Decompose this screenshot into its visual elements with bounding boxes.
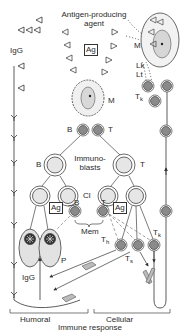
label-mem: Mem <box>81 228 99 236</box>
macrophage-top-right <box>141 13 179 67</box>
antigen-box-top: Ag <box>84 44 98 56</box>
label-b-blast: B <box>36 161 41 169</box>
footer-brackets <box>10 309 170 313</box>
label-tk-top: Tk <box>135 93 143 103</box>
label-t-blast: T <box>140 161 145 169</box>
macrophage-center <box>72 80 104 116</box>
label-ts: Ts <box>125 255 133 265</box>
label-igg-bottom: IgG <box>22 274 35 282</box>
footer-humoral: Humoral <box>20 316 50 324</box>
label-m-center: M <box>108 97 115 105</box>
label-t-upper: T <box>108 126 113 134</box>
antigen-box-right: Ag <box>113 202 127 214</box>
label-lt: Lt <box>136 71 143 79</box>
label-igg-top: IgG <box>10 47 23 55</box>
title-line2: agent <box>54 20 134 28</box>
footer-immune-response: Immune response <box>40 324 140 332</box>
label-tk-bottom: Tk <box>153 229 161 239</box>
label-b-mem: B <box>74 199 79 207</box>
label-p: P <box>61 257 66 265</box>
mem-brace <box>75 220 103 227</box>
title-line1: Antigen-producing <box>54 11 134 19</box>
label-t-mem: T <box>101 199 106 207</box>
lysed-cells <box>62 262 155 302</box>
label-lk: Lk <box>136 62 144 70</box>
label-m-top: M <box>134 42 141 50</box>
label-th: Th <box>101 236 109 246</box>
label-immunoblasts-1: Immuno- <box>72 155 108 163</box>
right-circulation-line <box>154 92 167 308</box>
label-b-upper: B <box>67 126 72 134</box>
antigen-box-left: Ag <box>49 202 63 214</box>
label-cl: Cl <box>83 192 91 200</box>
label-immunoblasts-2: blasts <box>72 164 108 172</box>
